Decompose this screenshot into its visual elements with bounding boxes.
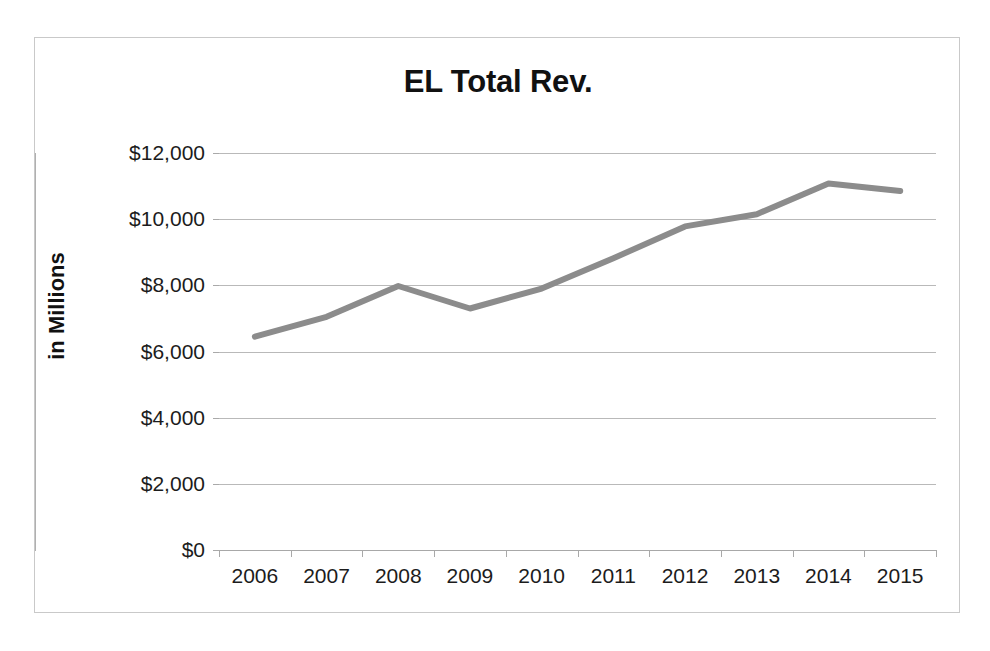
chart-frame: EL Total Rev. in Millions $12,000$10,000…	[34, 37, 960, 613]
x-axis-tick-label: 2010	[518, 564, 565, 588]
x-axis-tick-label: 2011	[591, 564, 636, 588]
x-axis-tick-mark	[721, 550, 722, 557]
x-axis-tick-mark	[578, 550, 579, 557]
x-axis-tick-mark	[936, 550, 937, 557]
chart-title: EL Total Rev.	[35, 64, 961, 100]
x-axis-tick-label: 2014	[805, 564, 852, 588]
y-axis-tick-label: $0	[75, 538, 205, 562]
x-axis-tick-mark	[506, 550, 507, 557]
x-axis-tick-mark	[864, 550, 865, 557]
y-axis-tick-label: $8,000	[75, 273, 205, 297]
x-axis-tick-label: 2006	[231, 564, 278, 588]
x-axis-tick-mark	[219, 550, 220, 557]
series-line-chart	[219, 153, 936, 550]
x-axis-tick-mark	[362, 550, 363, 557]
series-line-el-total-rev	[255, 183, 900, 336]
y-axis-line	[35, 153, 36, 551]
x-axis-tick-label: 2015	[877, 564, 924, 588]
x-axis-tick-mark	[291, 550, 292, 557]
x-axis-tick-mark	[434, 550, 435, 557]
x-axis-tick-label: 2008	[375, 564, 422, 588]
x-axis-tick-mark	[649, 550, 650, 557]
y-axis-tick-label: $2,000	[75, 472, 205, 496]
plot-area: 2006200720082009201020112012201320142015	[219, 153, 936, 550]
y-axis-title: in Millions	[44, 226, 70, 386]
y-axis-tick-label: $4,000	[75, 406, 205, 430]
x-axis-tick-label: 2013	[733, 564, 780, 588]
y-axis-tick-label: $10,000	[75, 207, 205, 231]
x-axis-tick-label: 2012	[662, 564, 709, 588]
x-axis-tick-mark	[793, 550, 794, 557]
y-axis-tick-label: $6,000	[75, 340, 205, 364]
x-axis-tick-label: 2007	[303, 564, 350, 588]
x-axis-tick-label: 2009	[447, 564, 494, 588]
y-axis-tick-label: $12,000	[75, 141, 205, 165]
